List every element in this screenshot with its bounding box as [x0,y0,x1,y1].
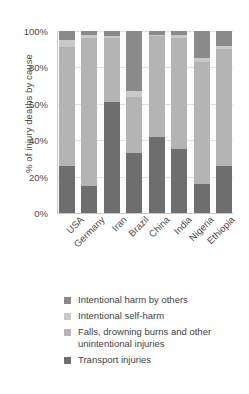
bar-segment[interactable] [194,31,210,58]
bar-segment[interactable] [59,166,75,213]
legend-item[interactable]: Falls, drowning burns and other unintent… [64,326,244,350]
bar-segment[interactable] [149,36,165,136]
bar-segment[interactable] [171,149,187,213]
bar-segment[interactable] [126,97,142,153]
legend-swatch-icon [64,357,71,364]
y-tick-label: 20% [14,171,48,182]
bar-segment[interactable] [216,49,232,165]
bar-segment[interactable] [59,40,75,47]
y-tick-label: 40% [14,135,48,146]
bar-segment[interactable] [216,166,232,213]
stacked-bar-chart: % of injury deaths by cause 0%20%40%60%8… [0,0,249,394]
x-axis-tick-labels: USAGermanyIranBrazilChinaIndiaNigeriaEth… [57,214,232,274]
bar-segment[interactable] [149,137,165,213]
bar-segment[interactable] [59,47,75,165]
bar-group [58,31,233,213]
bar-segment[interactable] [81,186,97,213]
bar-segment[interactable] [104,102,120,213]
legend-item[interactable]: Transport injuries [64,354,244,366]
bar-iran[interactable] [104,31,120,213]
legend-label: Intentional self-harm [78,310,164,322]
legend-swatch-icon [64,329,71,336]
legend-label: Transport injuries [78,354,151,366]
legend-swatch-icon [64,297,71,304]
plot-area [57,31,233,214]
legend-item[interactable]: Intentional self-harm [64,310,244,322]
y-tick-label: 60% [14,98,48,109]
bar-segment[interactable] [194,62,210,184]
legend-item[interactable]: Intentional harm by others [64,294,244,306]
bar-china[interactable] [149,31,165,213]
y-tick-label: 100% [14,26,48,37]
legend-swatch-icon [64,313,71,320]
bar-ethiopia[interactable] [216,31,232,213]
bar-usa[interactable] [59,31,75,213]
bar-segment[interactable] [81,38,97,185]
bar-segment[interactable] [216,31,232,46]
bar-nigeria[interactable] [194,31,210,213]
bar-segment[interactable] [194,184,210,213]
bar-india[interactable] [171,31,187,213]
legend-label: Intentional harm by others [78,294,188,306]
bar-germany[interactable] [81,31,97,213]
bar-brazil[interactable] [126,31,142,213]
bar-segment[interactable] [126,153,142,213]
bar-segment[interactable] [171,38,187,149]
bar-segment[interactable] [59,31,75,40]
bar-segment[interactable] [104,38,120,102]
y-tick-label: 80% [14,62,48,73]
chart-legend: Intentional harm by othersIntentional se… [64,294,244,370]
legend-label: Falls, drowning burns and other unintent… [78,326,244,350]
y-axis-tick-labels: 0%20%40%60%80%100% [8,0,48,394]
bar-segment[interactable] [126,31,142,91]
y-tick-label: 0% [14,208,48,219]
